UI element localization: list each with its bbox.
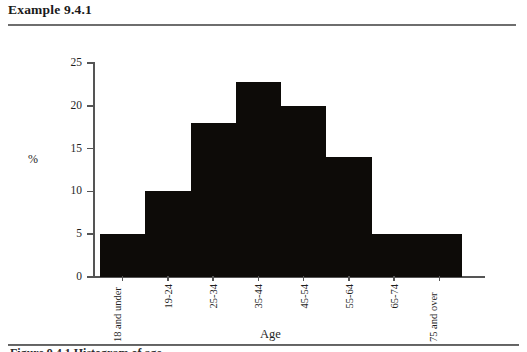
x-tick-mark: [258, 276, 260, 281]
x-tick-mark: [167, 276, 169, 281]
y-tick-label: 25: [36, 57, 82, 69]
x-tick-mark: [122, 276, 124, 281]
x-axis-title: Age: [0, 327, 527, 342]
y-tick-label: 10: [36, 185, 82, 197]
y-tick-mark: [87, 276, 93, 278]
histogram-chart: 0510152025 % 18 and under19-2425-3435-44…: [0, 0, 527, 352]
bar: [236, 82, 281, 277]
divider-bottom: [8, 344, 519, 346]
y-tick-label: 20: [36, 100, 82, 112]
y-axis-label: %: [28, 152, 38, 167]
y-tick-mark: [87, 105, 93, 107]
bar: [145, 191, 190, 277]
x-axis-title-text: Age: [260, 327, 281, 342]
bar: [281, 106, 326, 277]
bar: [191, 123, 236, 277]
x-tick-mark: [212, 276, 214, 281]
bar: [100, 234, 145, 277]
x-tick-mark: [348, 276, 350, 281]
x-tick-mark: [303, 276, 305, 281]
y-tick-mark: [87, 191, 93, 193]
bar: [372, 234, 417, 277]
bar-series: [100, 63, 462, 277]
y-tick-mark: [87, 62, 93, 64]
x-tick-mark: [393, 276, 395, 281]
bar: [326, 157, 371, 277]
page-root: Example 9.4.1 0510152025 % 18 and under1…: [0, 0, 527, 352]
y-tick-mark: [87, 148, 93, 150]
y-tick-mark: [87, 233, 93, 235]
x-category-label-text: 55-64: [344, 284, 355, 309]
bar: [417, 234, 462, 277]
x-category-label-text: 65-74: [389, 284, 400, 309]
y-tick-label: 15: [36, 143, 82, 155]
x-category-label-text: 45-54: [299, 284, 310, 309]
y-axis-line: [93, 62, 95, 278]
x-tick-mark: [439, 276, 441, 281]
y-tick-label: 5: [36, 228, 82, 240]
x-category-label-text: 19-24: [163, 284, 174, 309]
y-tick-label: 0: [36, 271, 82, 283]
x-category-label-text: 25-34: [208, 284, 219, 309]
figure-caption: Figure 9.4.1 Histogram of age: [10, 347, 510, 352]
x-category-label-text: 35-44: [253, 284, 264, 309]
